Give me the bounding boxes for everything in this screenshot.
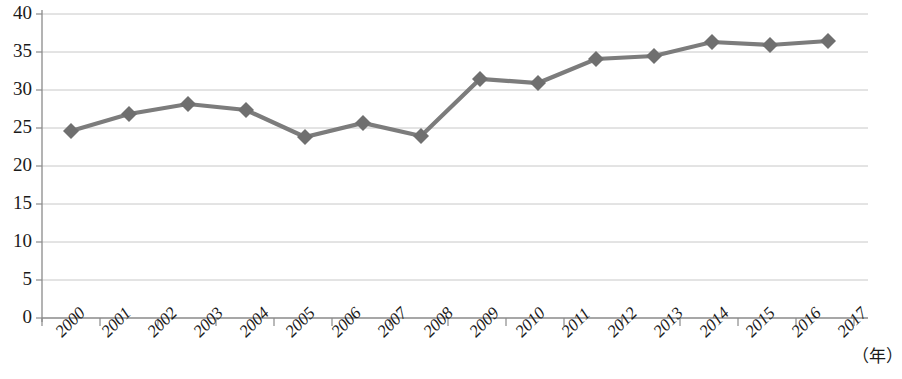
- y-tick-label-5: 5: [23, 268, 33, 289]
- data-point-2005: [355, 115, 371, 131]
- x-tick-label-2002: 2002: [143, 303, 181, 341]
- x-tick-label-2000: 2000: [51, 303, 89, 341]
- x-axis-unit-label: （年）: [852, 347, 902, 366]
- x-tick-label-2016: 2016: [787, 303, 825, 341]
- x-tick-label-2010: 2010: [511, 303, 549, 341]
- x-tick-label-2013: 2013: [649, 303, 686, 340]
- data-point-2008: [530, 75, 546, 91]
- data-point-2013: [820, 33, 836, 49]
- x-tick-label-2001: 2001: [97, 303, 134, 340]
- x-tick-label-2011: 2011: [557, 304, 594, 341]
- y-tick-label-30: 30: [13, 78, 32, 99]
- x-tick-label-2014: 2014: [695, 303, 733, 341]
- chart-canvas: 40 35 30 25 20 15 10 5 0: [0, 0, 902, 379]
- x-tick-label-2006: 2006: [327, 303, 365, 341]
- data-point-2000: [63, 123, 79, 139]
- gridlines: [42, 14, 868, 280]
- x-tick-label-2007: 2007: [373, 302, 412, 341]
- x-tick-label-2005: 2005: [281, 303, 318, 340]
- y-axis: [36, 10, 42, 322]
- data-point-2012: [762, 37, 778, 53]
- x-tick-labels: 2000 2001 2002 2003 2004 2005 2006 2007 …: [51, 302, 872, 341]
- y-tick-label-40: 40: [13, 2, 32, 23]
- data-point-2001: [121, 106, 137, 122]
- x-tick-label-2004: 2004: [235, 303, 273, 341]
- data-point-2009: [588, 51, 604, 67]
- data-series: [71, 41, 828, 137]
- x-tick-label-2015: 2015: [741, 303, 778, 340]
- x-tick-label-2017: 2017: [833, 302, 872, 341]
- series-line: [71, 41, 828, 137]
- y-tick-label-20: 20: [13, 154, 32, 175]
- x-tick-label-2012: 2012: [603, 303, 641, 341]
- x-tick-label-2009: 2009: [465, 303, 503, 341]
- x-tick-label-2003: 2003: [189, 303, 226, 340]
- data-point-2011: [704, 34, 720, 50]
- y-tick-labels: 40 35 30 25 20 15 10 5 0: [13, 2, 32, 327]
- data-point-2010: [646, 48, 662, 64]
- data-point-2003: [238, 102, 254, 118]
- data-point-2002: [180, 96, 196, 112]
- y-tick-label-10: 10: [13, 230, 32, 251]
- line-chart: 40 35 30 25 20 15 10 5 0: [0, 0, 902, 379]
- y-tick-label-25: 25: [13, 116, 32, 137]
- data-point-2004: [297, 129, 313, 145]
- y-tick-label-15: 15: [13, 192, 32, 213]
- x-tick-label-2008: 2008: [419, 303, 457, 341]
- y-tick-label-0: 0: [23, 306, 33, 327]
- y-tick-label-35: 35: [13, 40, 32, 61]
